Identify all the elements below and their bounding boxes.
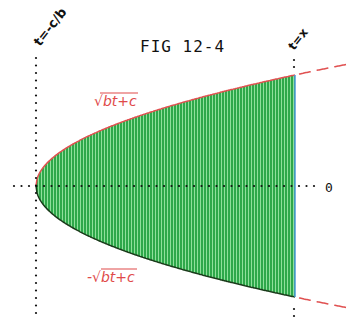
right-bound-label: t=x: [285, 25, 311, 52]
lower-curve-label: -√bt+c: [87, 269, 137, 285]
figure-canvas: FIG 12-4 t=-c/b t=x 0 √bt+c -√bt+c: [0, 0, 360, 333]
left-bound-label: t=-c/b: [31, 5, 70, 49]
lower-curve-label-text: -√bt+c: [87, 269, 135, 285]
upper-curve-label-text: √bt+c: [94, 93, 137, 109]
upper-curve-label: √bt+c: [94, 93, 138, 109]
upper-curve-extension: [299, 64, 350, 74]
lower-curve-extension: [299, 298, 350, 308]
horizontal-axis-dotted-line: [13, 185, 315, 187]
figure-title: FIG 12-4: [140, 37, 225, 56]
axis-zero-label: 0: [325, 180, 333, 195]
